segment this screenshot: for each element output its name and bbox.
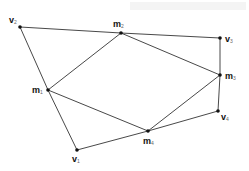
- outer-edge-v4-m4: [148, 111, 218, 131]
- point-v1: [75, 148, 79, 152]
- outer-edge-v2-m2: [20, 27, 121, 33]
- label-subscript: 3: [233, 75, 236, 81]
- inner-edge-m3-m4: [148, 75, 220, 131]
- label-letter: m: [32, 85, 40, 95]
- label-subscript: 2: [14, 19, 17, 25]
- inner-edge-m2-m3: [121, 33, 220, 75]
- label-m2: m2: [113, 20, 124, 29]
- label-v1: v1: [72, 155, 80, 164]
- point-m4: [146, 129, 150, 133]
- label-subscript: 4: [226, 116, 229, 122]
- diagram-canvas: v1v2v3v4m1m2m3m4: [0, 0, 249, 171]
- inner-edge-m1-m2: [48, 33, 121, 90]
- point-m1: [46, 88, 50, 92]
- outer-edge-m3-v4: [218, 75, 220, 111]
- outer-edge-v1-m1: [48, 90, 77, 150]
- point-m3: [218, 73, 222, 77]
- outer-edge-m4-v1: [77, 131, 148, 150]
- point-v4: [216, 109, 220, 113]
- label-m3: m3: [225, 72, 236, 81]
- outer-edge-m2-v3: [121, 33, 220, 38]
- label-m4: m4: [143, 137, 154, 146]
- outer-edge-m1-v2: [20, 27, 48, 90]
- label-subscript: 1: [40, 89, 43, 95]
- label-subscript: 4: [151, 140, 154, 146]
- label-letter: m: [143, 136, 151, 146]
- point-v3: [218, 36, 222, 40]
- label-v4: v4: [221, 113, 229, 122]
- label-subscript: 1: [77, 158, 80, 164]
- label-v2: v2: [9, 16, 17, 25]
- inner-edge-m4-m1: [48, 90, 148, 131]
- label-letter: m: [113, 19, 121, 29]
- point-m2: [119, 31, 123, 35]
- label-v3: v3: [225, 35, 233, 44]
- label-subscript: 2: [121, 23, 124, 29]
- label-subscript: 3: [230, 38, 233, 44]
- point-v2: [18, 25, 22, 29]
- label-letter: m: [225, 71, 233, 81]
- label-m1: m1: [32, 86, 43, 95]
